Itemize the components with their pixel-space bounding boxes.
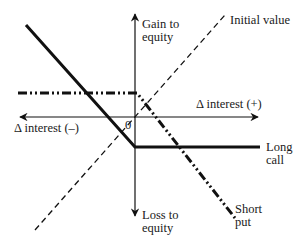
y-negative-label: Loss to equity [142, 209, 178, 235]
y-positive-label-line2: equity [142, 31, 179, 44]
y-negative-label-line2: equity [142, 222, 178, 235]
origin-label: 0 [125, 119, 131, 132]
long-call-label-line2: call [266, 154, 292, 167]
short-put-label: Short put [235, 203, 262, 229]
y-positive-label: Gain to equity [142, 18, 179, 44]
initial-value-label: Initial value [230, 14, 290, 27]
x-positive-label: Δ interest (+) [196, 98, 262, 111]
long-call-label: Long call [266, 141, 292, 167]
x-negative-label: Δ interest (–) [14, 122, 79, 135]
short-put-line [18, 93, 235, 218]
short-put-label-line2: put [235, 216, 262, 229]
